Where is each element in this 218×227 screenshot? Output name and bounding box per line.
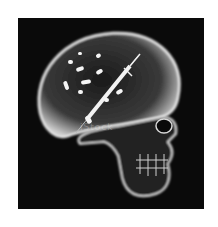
xray-skull-image: iStock <box>18 18 204 209</box>
watermark: iStock <box>80 122 113 132</box>
eye-socket <box>156 119 172 133</box>
skull-illustration <box>18 18 204 209</box>
